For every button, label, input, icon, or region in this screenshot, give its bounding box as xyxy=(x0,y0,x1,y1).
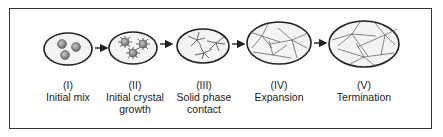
stage-1-ellipse xyxy=(44,33,92,65)
stage-5-label: (V) Termination xyxy=(326,79,402,103)
stage-5-ellipse xyxy=(329,21,399,67)
stage-1-numeral: (I) xyxy=(30,79,106,91)
stage-4-label: (IV) Expansion xyxy=(241,79,317,103)
stage-4-ellipse xyxy=(247,22,311,64)
stage-5-numeral: (V) xyxy=(326,79,402,91)
stage-3-label: (III) Solid phase contact xyxy=(166,79,242,115)
stage-2-numeral: (II) xyxy=(97,79,173,91)
stage-5-name: Termination xyxy=(326,91,402,103)
stage-2-ellipse xyxy=(109,32,157,64)
stage-4-name: Expansion xyxy=(241,91,317,103)
stage-2-name: Initial crystal xyxy=(97,91,173,103)
diagram-graphics xyxy=(0,0,443,137)
stage-1-label: (I) Initial mix xyxy=(30,79,106,103)
stage-2-label: (II) Initial crystal growth xyxy=(97,79,173,115)
stage-2-name-line2: growth xyxy=(97,103,173,115)
stage-1-name: Initial mix xyxy=(30,91,106,103)
stage-3-name: Solid phase xyxy=(166,91,242,103)
stage-3-numeral: (III) xyxy=(166,79,242,91)
stage-3-name-line2: contact xyxy=(166,103,242,115)
stage-4-numeral: (IV) xyxy=(241,79,317,91)
stage-3-ellipse xyxy=(177,29,229,63)
